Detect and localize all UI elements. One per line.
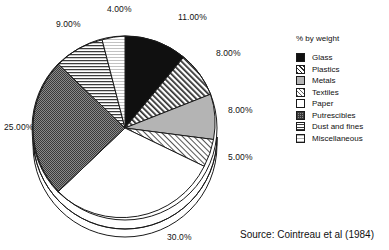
legend-label-miscellaneous: Miscellaneous	[312, 133, 363, 144]
legend-label-metals: Metals	[312, 75, 336, 86]
slice-label-metals: 8.00%	[228, 105, 253, 115]
legend-label-glass: Glass	[312, 52, 332, 63]
legend-item-miscellaneous: Miscellaneous	[296, 133, 388, 144]
legend-item-putrescibles: Putrescibles	[296, 110, 388, 121]
legend-swatch-dust-and-fines-icon	[296, 122, 305, 131]
legend-item-plastics: Plastics	[296, 64, 388, 75]
legend-swatch-textiles-icon	[296, 88, 305, 97]
legend-item-textiles: Textiles	[296, 87, 388, 98]
slice-label-textiles: 5.00%	[228, 152, 253, 162]
slice-label-glass: 11.00%	[178, 12, 207, 22]
legend-label-putrescibles: Putrescibles	[312, 110, 356, 121]
legend-title: % by weight	[296, 34, 388, 43]
legend-label-dust-and-fines: Dust and fines	[312, 121, 363, 132]
legend-label-paper: Paper	[312, 98, 333, 109]
legend-swatch-putrescibles-icon	[296, 111, 305, 120]
pie-chart-figure: 11.00% 8.00% 8.00% 5.00% 30.0% 25.00% 9.…	[0, 0, 389, 250]
legend-item-metals: Metals	[296, 75, 388, 86]
slice-label-putrescibles: 25.00%	[4, 122, 33, 132]
legend-item-glass: Glass	[296, 52, 388, 63]
legend-swatch-glass-icon	[296, 53, 305, 62]
legend-swatch-paper-icon	[296, 99, 305, 108]
legend-swatch-miscellaneous-icon	[296, 134, 305, 143]
legend: % by weight Glass Plastics Metals Textil…	[296, 34, 388, 144]
slice-label-paper: 30.0%	[167, 232, 192, 242]
source-caption: Source: Cointreau et al (1984)	[240, 229, 374, 240]
legend-item-dust-and-fines: Dust and fines	[296, 121, 388, 132]
legend-label-plastics: Plastics	[312, 64, 340, 75]
slice-label-miscellaneous: 4.00%	[107, 4, 132, 14]
legend-swatch-plastics-icon	[296, 65, 305, 74]
legend-label-textiles: Textiles	[312, 87, 339, 98]
legend-swatch-metals-icon	[296, 76, 305, 85]
slice-label-dust-and-fines: 9.00%	[56, 19, 81, 29]
slice-label-plastics: 8.00%	[216, 48, 241, 58]
legend-item-paper: Paper	[296, 98, 388, 109]
